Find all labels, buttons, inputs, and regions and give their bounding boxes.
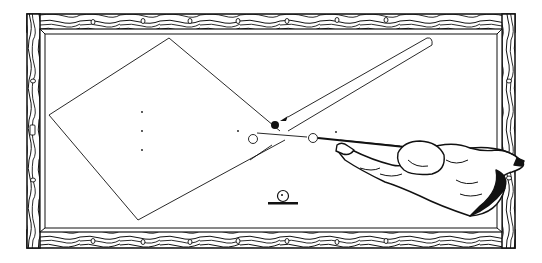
billiards-illustration: Overhead view of a billiard table with p… (0, 0, 542, 263)
rail-right (502, 14, 515, 248)
black-object-ball (271, 121, 279, 129)
white-ball-2 (309, 134, 318, 143)
white-ball-1 (249, 135, 258, 144)
rail-bottom (27, 230, 515, 248)
